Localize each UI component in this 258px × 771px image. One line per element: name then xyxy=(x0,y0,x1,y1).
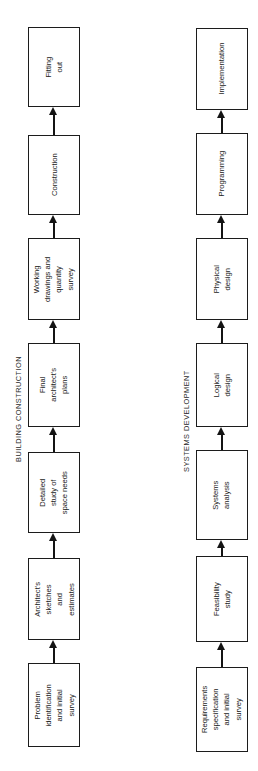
lane-title-building-construction: BUILDING CONSTRUCTION xyxy=(14,356,23,462)
node-label: Detailed study of space needs xyxy=(37,471,71,514)
node-systems-logical-design: Logical design xyxy=(196,343,248,427)
arrow-systems-1 xyxy=(215,642,229,667)
arrow-head-up-icon xyxy=(49,533,57,541)
arrow-building-2 xyxy=(47,533,61,558)
arrow-head-up-icon xyxy=(217,427,225,435)
node-systems-implementation: Implementation xyxy=(196,28,248,110)
arrow-building-4 xyxy=(47,320,61,343)
arrow-building-6 xyxy=(47,107,61,135)
node-building-architects-sketches: Architect's sketches and estimates xyxy=(28,558,80,640)
node-systems-systems-analysis: Systems analysis xyxy=(196,450,248,540)
arrow-systems-5 xyxy=(215,215,229,238)
arrow-head-up-icon xyxy=(49,320,57,328)
node-label: Working drawings and quantity survey xyxy=(32,256,77,301)
arrow-systems-6 xyxy=(215,110,229,133)
node-systems-physical-design: Physical design xyxy=(196,238,248,320)
node-systems-feasibility-study: Feasibility study xyxy=(196,556,248,642)
arrow-head-up-icon xyxy=(217,110,225,118)
lane-title-systems-development: SYSTEMS DEVELOPMENT xyxy=(182,370,191,472)
node-label: Requirements specification and initial s… xyxy=(200,686,245,733)
arrow-shaft xyxy=(53,538,55,558)
arrow-systems-4 xyxy=(215,320,229,343)
node-building-working-drawings: Working drawings and quantity survey xyxy=(28,238,80,320)
arrow-systems-3 xyxy=(215,427,229,450)
arrow-building-1 xyxy=(47,640,61,663)
node-label: Final architect's plans xyxy=(37,368,71,402)
arrow-shaft xyxy=(53,112,55,135)
node-systems-requirements-specification: Requirements specification and initial s… xyxy=(196,667,248,752)
arrow-head-up-icon xyxy=(49,640,57,648)
lane-building-construction: BUILDING CONSTRUCTION Problem identifica… xyxy=(0,0,110,771)
node-building-problem-identification: Problem identification and initial surve… xyxy=(28,663,80,747)
lane-systems-development: SYSTEMS DEVELOPMENT Requirements specifi… xyxy=(168,0,258,771)
arrow-head-up-icon xyxy=(217,642,225,650)
node-building-detailed-study: Detailed study of space needs xyxy=(28,452,80,533)
node-label: Implementation xyxy=(216,43,227,95)
arrow-building-3 xyxy=(47,427,61,452)
node-systems-programming: Programming xyxy=(196,133,248,215)
arrow-building-5 xyxy=(47,215,61,238)
process-comparison-diagram: BUILDING CONSTRUCTION Problem identifica… xyxy=(0,0,258,771)
arrow-shaft xyxy=(53,432,55,452)
arrow-head-up-icon xyxy=(217,540,225,548)
arrow-head-up-icon xyxy=(49,215,57,223)
node-label: Architect's sketches and estimates xyxy=(32,582,77,617)
arrow-head-up-icon xyxy=(49,107,57,115)
node-label: Fitting out xyxy=(43,57,65,78)
node-label: Problem identification and initial surve… xyxy=(32,684,77,726)
node-building-construction: Construction xyxy=(28,135,80,215)
arrow-shaft xyxy=(221,647,223,667)
node-label: Feasibility study xyxy=(211,582,233,616)
node-label: Programming xyxy=(216,151,227,197)
node-label: Systems analysis xyxy=(211,480,233,509)
arrow-head-up-icon xyxy=(217,215,225,223)
arrow-head-up-icon xyxy=(49,427,57,435)
node-building-fitting-out: Fitting out xyxy=(28,27,80,107)
node-label: Physical design xyxy=(211,265,233,293)
arrow-systems-2 xyxy=(215,540,229,556)
node-label: Construction xyxy=(48,154,59,197)
node-building-final-plans: Final architect's plans xyxy=(28,343,80,427)
node-label: Logical design xyxy=(211,373,233,397)
arrow-head-up-icon xyxy=(217,320,225,328)
